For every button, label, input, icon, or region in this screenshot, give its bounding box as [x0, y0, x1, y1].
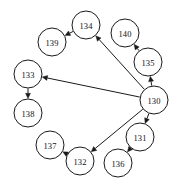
- edge-130-to-131: [145, 114, 150, 124]
- node-label-130: 130: [147, 96, 160, 106]
- arrowhead-130-to-131: [145, 118, 150, 124]
- graph-node-138[interactable]: 138: [14, 99, 42, 127]
- graph-node-136[interactable]: 136: [104, 149, 132, 177]
- node-layer: 130131132133134135136137138139140: [14, 11, 168, 177]
- graph-node-135[interactable]: 135: [134, 48, 162, 76]
- node-label-131: 131: [133, 133, 146, 143]
- graph-node-132[interactable]: 132: [66, 147, 94, 175]
- node-label-136: 136: [111, 159, 124, 169]
- edge-135-to-140: [134, 44, 139, 50]
- graph-node-139[interactable]: 139: [38, 28, 66, 56]
- node-label-139: 139: [45, 38, 58, 48]
- node-label-140: 140: [118, 29, 131, 39]
- graph-node-134[interactable]: 134: [72, 11, 100, 39]
- arrowhead-130-to-135: [149, 76, 154, 82]
- arrowhead-130-to-133: [42, 76, 48, 81]
- graph-node-140[interactable]: 140: [111, 19, 139, 47]
- edge-130-to-135: [149, 76, 154, 85]
- graph-node-130[interactable]: 130: [140, 86, 168, 114]
- node-label-135: 135: [141, 58, 154, 68]
- node-label-138: 138: [21, 109, 34, 119]
- edge-133-to-138: [26, 89, 31, 99]
- graph-node-131[interactable]: 131: [126, 123, 154, 151]
- arrowhead-133-to-138: [26, 93, 31, 98]
- edge-134-to-139: [65, 31, 73, 36]
- node-label-134: 134: [79, 21, 93, 31]
- node-label-132: 132: [73, 157, 86, 167]
- graph-diagram: 130131132133134135136137138139140: [0, 0, 180, 185]
- graph-canvas: 130131132133134135136137138139140: [0, 0, 180, 185]
- node-label-137: 137: [43, 141, 56, 151]
- node-label-133: 133: [21, 70, 34, 80]
- graph-node-137[interactable]: 137: [36, 131, 64, 159]
- edge-130-to-133: [42, 76, 140, 98]
- graph-node-133[interactable]: 133: [14, 60, 42, 88]
